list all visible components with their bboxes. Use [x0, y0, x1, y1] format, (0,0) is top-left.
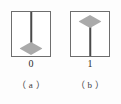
panel-b-value-label: 1: [61, 58, 119, 70]
panel-a-diamond-shape: [20, 42, 43, 55]
figure-two-panel-diagram: 0 （ a ） 1 （ b ）: [0, 0, 121, 104]
panel-a-box: [11, 11, 51, 57]
panel-a-stem-line: [30, 12, 32, 44]
panel-b-stem-line: [89, 25, 91, 56]
panel-a-caption: （ a ）: [2, 80, 60, 91]
panel-b-caption: （ b ）: [61, 80, 119, 91]
panel-a-value-label: 0: [2, 58, 60, 70]
panel-a: 0 （ a ）: [2, 0, 60, 104]
panel-b-diamond-shape: [79, 15, 102, 28]
panel-b-box: [70, 11, 110, 57]
panel-b: 1 （ b ）: [61, 0, 119, 104]
